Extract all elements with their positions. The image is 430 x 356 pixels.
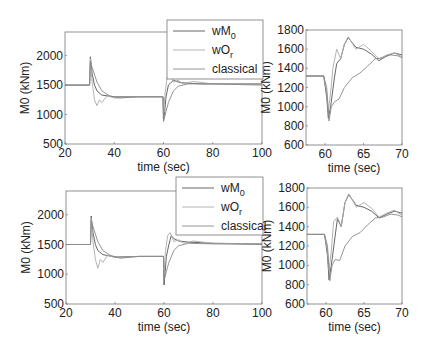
y-tick-label: 800 bbox=[284, 119, 304, 133]
figure: 20406080100500100015002000time (sec)M0 (… bbox=[0, 0, 430, 356]
y-tick-label: 1000 bbox=[277, 100, 304, 114]
axes-box bbox=[307, 188, 402, 304]
y-tick-label: 1400 bbox=[277, 61, 304, 75]
y-axis-label: M0 (kNm) bbox=[19, 221, 33, 274]
y-axis-label: M0 (kNm) bbox=[18, 62, 32, 115]
series-wm0 bbox=[306, 38, 402, 119]
x-axis-label: time (sec) bbox=[328, 161, 381, 175]
x-tick-label: 40 bbox=[108, 306, 122, 320]
series-wm0 bbox=[307, 195, 402, 280]
y-tick-label: 1000 bbox=[278, 258, 305, 272]
y-tick-label: 1800 bbox=[278, 181, 305, 195]
series-wor bbox=[307, 194, 402, 270]
x-tick-label: 70 bbox=[395, 306, 409, 320]
legend-label: classical bbox=[212, 62, 257, 76]
y-tick-label: 600 bbox=[284, 138, 304, 152]
plot-area bbox=[307, 194, 402, 281]
y-tick-label: 1000 bbox=[37, 267, 64, 281]
y-tick-label: 1400 bbox=[278, 220, 305, 234]
axes-box bbox=[306, 30, 402, 145]
x-axis-label: time (sec) bbox=[328, 320, 381, 334]
legend: wM0wOrclassical bbox=[167, 20, 263, 79]
y-tick-label: 2000 bbox=[36, 49, 63, 63]
y-tick-label: 1600 bbox=[278, 200, 305, 214]
plot-area bbox=[306, 37, 402, 121]
chart-bottom-right: 60657060080010001200140016001800time (se… bbox=[260, 181, 409, 334]
y-tick-label: 1200 bbox=[277, 81, 304, 95]
y-tick-label: 1200 bbox=[278, 239, 305, 253]
y-tick-label: 600 bbox=[285, 297, 305, 311]
chart-top-right: 60657060080010001200140016001800time (se… bbox=[259, 23, 409, 175]
x-tick-label: 60 bbox=[157, 306, 171, 320]
x-tick-label: 65 bbox=[357, 147, 371, 161]
x-tick-label: 80 bbox=[206, 306, 220, 320]
y-tick-label: 1000 bbox=[36, 108, 63, 122]
x-tick-label: 60 bbox=[319, 147, 333, 161]
x-tick-label: 100 bbox=[252, 146, 272, 160]
y-tick-label: 1800 bbox=[277, 23, 304, 37]
x-tick-label: 60 bbox=[319, 306, 333, 320]
x-tick-label: 60 bbox=[157, 146, 171, 160]
y-tick-label: 1500 bbox=[36, 78, 63, 92]
x-tick-label: 70 bbox=[395, 147, 409, 161]
series-wor bbox=[306, 37, 402, 112]
x-axis-label: time (sec) bbox=[137, 160, 190, 174]
y-tick-label: 500 bbox=[44, 297, 64, 311]
legend-label: classical bbox=[221, 219, 266, 233]
y-tick-label: 500 bbox=[43, 137, 63, 151]
x-tick-label: 80 bbox=[206, 146, 220, 160]
y-tick-label: 2000 bbox=[37, 208, 64, 222]
y-tick-label: 800 bbox=[285, 278, 305, 292]
x-tick-label: 65 bbox=[357, 306, 371, 320]
x-tick-label: 100 bbox=[252, 306, 272, 320]
series-classical bbox=[306, 55, 402, 121]
x-tick-label: 40 bbox=[108, 146, 122, 160]
series-classical bbox=[307, 214, 402, 281]
y-tick-label: 1500 bbox=[37, 238, 64, 252]
y-tick-label: 1600 bbox=[277, 42, 304, 56]
legend: wM0wOrclassical bbox=[176, 177, 266, 235]
x-axis-label: time (sec) bbox=[138, 320, 191, 334]
